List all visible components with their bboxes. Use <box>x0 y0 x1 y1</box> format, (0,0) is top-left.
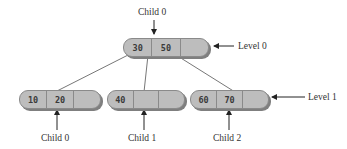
root-node: 30 50 <box>123 38 209 57</box>
key-cell <box>74 91 100 108</box>
key-cell: 60 <box>191 91 217 108</box>
child-1-label: Child 1 <box>128 133 156 143</box>
key-cell <box>159 91 184 108</box>
b-tree-diagram: Child 0 30 50 Level 0 10 20 40 60 70 Lev… <box>0 0 347 149</box>
key-cell <box>243 91 268 108</box>
level-0-label: Level 0 <box>238 41 267 51</box>
child-node-2: 60 70 <box>190 90 269 109</box>
child-2-label: Child 2 <box>213 133 241 143</box>
child-node-0: 10 20 <box>19 90 101 109</box>
level-1-label: Level 1 <box>308 92 337 102</box>
key-cell: 30 <box>124 39 152 56</box>
key-cell <box>181 39 208 56</box>
child-node-1: 40 <box>107 90 185 109</box>
child-0-label: Child 0 <box>41 133 69 143</box>
key-cell: 10 <box>20 91 47 108</box>
key-cell: 50 <box>152 39 180 56</box>
connector-lines <box>0 0 347 149</box>
key-cell <box>134 91 160 108</box>
key-cell: 20 <box>47 91 74 108</box>
root-child-label: Child 0 <box>138 7 166 17</box>
key-cell: 70 <box>217 91 243 108</box>
key-cell: 40 <box>108 91 134 108</box>
